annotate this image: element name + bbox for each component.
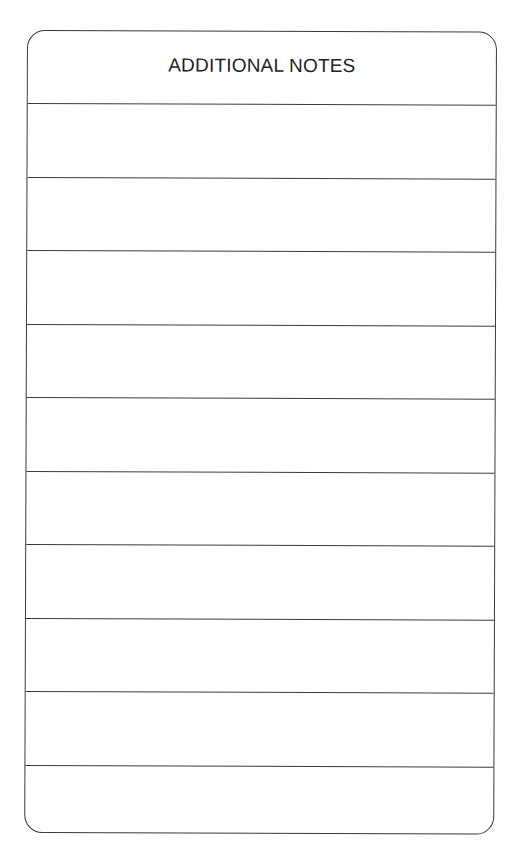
note-line-1[interactable] <box>27 104 495 179</box>
note-line-4[interactable] <box>27 325 495 400</box>
note-line-9[interactable] <box>25 692 493 767</box>
notes-header: ADDITIONAL NOTES <box>28 31 496 106</box>
note-line-3[interactable] <box>27 251 495 326</box>
note-line-10[interactable] <box>25 765 493 840</box>
notes-lines <box>25 104 496 841</box>
note-line-5[interactable] <box>26 398 494 473</box>
note-line-8[interactable] <box>26 618 494 693</box>
note-line-2[interactable] <box>27 178 495 253</box>
note-line-6[interactable] <box>26 472 494 547</box>
notes-card: ADDITIONAL NOTES <box>24 30 497 835</box>
notes-title: ADDITIONAL NOTES <box>168 54 355 77</box>
note-line-7[interactable] <box>26 545 494 620</box>
